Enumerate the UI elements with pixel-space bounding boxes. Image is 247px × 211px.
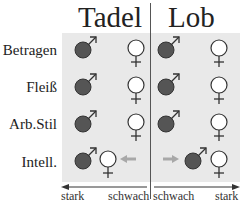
symbols-layer [0, 0, 247, 211]
female-icon [128, 114, 144, 141]
axis-label-tadel-left: stark [61, 189, 84, 203]
axis-label-lob-right: stark [215, 189, 238, 203]
axis-label-tadel-right: schwach [108, 189, 149, 203]
female-icon [128, 77, 144, 104]
female-icon [100, 151, 116, 178]
female-icon [211, 40, 227, 67]
male-icon [158, 37, 179, 58]
axis-label-lob-left: schwach [153, 189, 194, 203]
female-icon [211, 114, 227, 141]
male-icon [75, 111, 96, 132]
male-icon [158, 74, 179, 95]
shift-arrow-right-icon [163, 155, 179, 163]
female-icon [211, 77, 227, 104]
male-icon [158, 111, 179, 132]
male-icon [185, 148, 206, 169]
male-icon [75, 74, 96, 95]
male-icon [75, 148, 96, 169]
column-divider [150, 3, 151, 199]
shift-arrow-left-icon [120, 155, 136, 163]
female-icon [211, 151, 227, 178]
female-icon [128, 40, 144, 67]
male-icon [75, 37, 96, 58]
